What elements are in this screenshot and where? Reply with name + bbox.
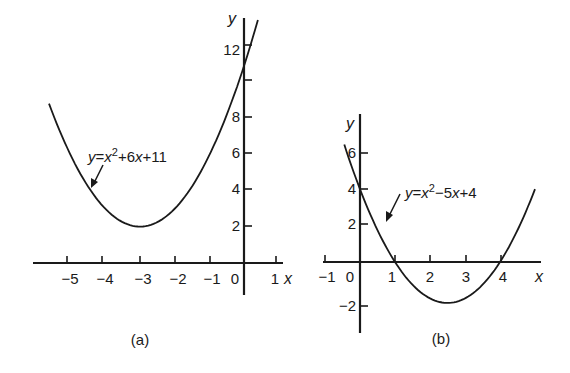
figure: −5 −4 −3 −2 −1 0 1 x 2 4 6 8 12 y y=x2+6… (0, 0, 570, 373)
panel-b-y-ticks (360, 153, 368, 306)
panel-b-y-tick-label: 2 (348, 215, 356, 232)
panel-a-y-tick-label: 2 (232, 217, 240, 234)
panel-b-y-axis-label: y (345, 115, 355, 132)
panel-b-x-tick-label: 0 (346, 268, 354, 285)
panel-b-equation-label: y=x2−5x+4 (404, 182, 477, 201)
panel-a-x-tick-label: 0 (231, 270, 239, 287)
panel-b: −1 0 1 2 3 4 x 6 4 2 −2 y y=x2−5x+4 (b) (318, 114, 544, 347)
panel-a-y-tick-label: 12 (223, 41, 240, 58)
panel-a-x-tick-label: −5 (61, 270, 78, 287)
panel-a-x-tick-label: 1 (271, 270, 279, 287)
panel-b-x-tick-label: 3 (462, 268, 470, 285)
panel-b-arrow-icon (386, 194, 400, 222)
panel-b-x-tick-label: −1 (318, 268, 335, 285)
panel-b-x-tick-label: 1 (388, 268, 396, 285)
panel-a-x-tick-label: −2 (169, 270, 186, 287)
panel-a-caption: (a) (131, 331, 149, 348)
panel-a-equation-label: y=x2+6x+11 (87, 146, 167, 165)
panel-b-x-tick-label: 4 (499, 268, 507, 285)
panel-b-caption: (b) (432, 330, 450, 347)
panel-a-arrow-icon (91, 165, 103, 188)
panel-a-x-axis-label: x (283, 270, 293, 287)
panel-a-x-tick-label: −1 (203, 270, 220, 287)
panel-a-x-tick-label: −4 (96, 270, 113, 287)
panel-a-x-tick-label: −3 (134, 270, 151, 287)
panel-b-x-tick-label: 2 (426, 268, 434, 285)
panel-a-y-axis-label: y (227, 10, 237, 27)
panel-b-x-axis-label: x (534, 268, 544, 285)
panel-a-y-tick-label: 4 (232, 180, 240, 197)
panel-a-y-ticks (244, 45, 252, 226)
panel-b-y-tick-label: −2 (339, 297, 356, 314)
panel-a: −5 −4 −3 −2 −1 0 1 x 2 4 6 8 12 y y=x2+6… (33, 10, 293, 348)
panel-b-y-tick-label: 4 (348, 180, 356, 197)
panel-a-y-tick-label: 6 (232, 144, 240, 161)
panel-a-y-tick-label: 8 (232, 108, 240, 125)
